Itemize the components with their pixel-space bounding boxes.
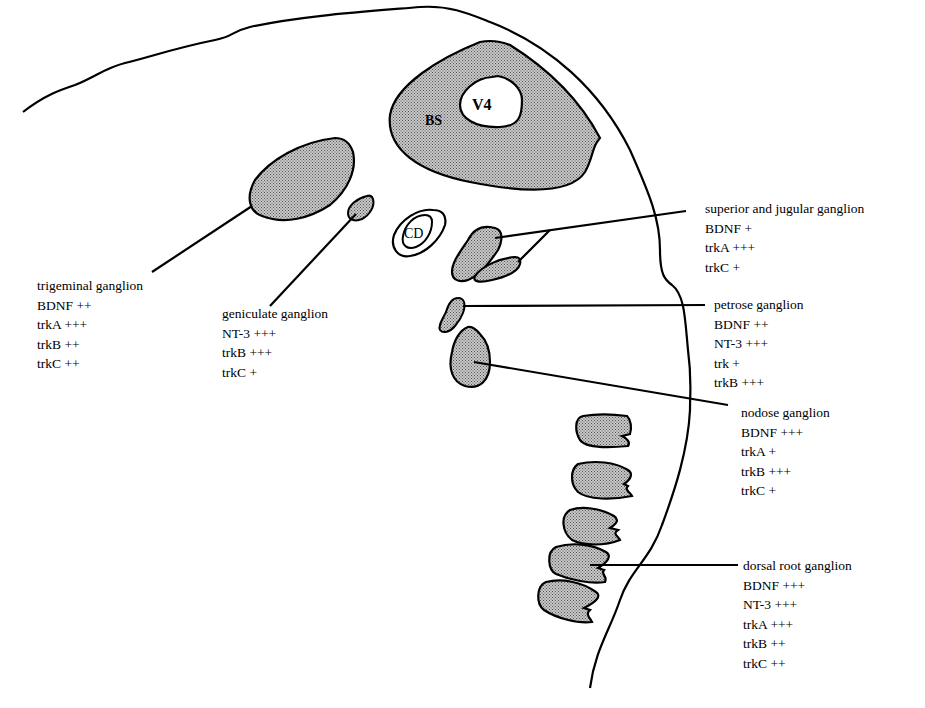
marker-label: NT-3 +++ (714, 334, 804, 354)
ganglion-name: dorsal root ganglion (743, 556, 852, 576)
marker-label: trkB +++ (741, 462, 830, 482)
cd-label: CD (404, 226, 423, 241)
nodose-ganglion-label: nodose ganglion BDNF +++ trkA + trkB +++… (741, 403, 830, 501)
marker-label: BDNF + (705, 219, 864, 239)
marker-label: BDNF ++ (37, 296, 143, 316)
marker-label: NT-3 +++ (222, 324, 328, 344)
drg-shape-5 (538, 580, 598, 622)
marker-label: trkB +++ (714, 373, 804, 393)
marker-label: BDNF ++ (714, 315, 804, 335)
superior-jugular-ganglion-label: superior and jugular ganglion BDNF + trk… (705, 199, 864, 277)
marker-label: trkB +++ (222, 343, 328, 363)
marker-label: NT-3 +++ (743, 595, 852, 615)
ganglion-name: trigeminal ganglion (37, 276, 143, 296)
trigeminal-ganglion-shape (250, 138, 354, 220)
v4-label: V4 (472, 96, 492, 113)
drg-shape-4 (549, 544, 609, 582)
drg-shape-3 (563, 508, 620, 545)
marker-label: BDNF +++ (741, 423, 830, 443)
geniculate-ganglion-label: geniculate ganglion NT-3 +++ trkB +++ tr… (222, 304, 328, 382)
marker-label: trkB ++ (743, 634, 852, 654)
marker-label: trkA +++ (37, 315, 143, 335)
marker-label: trk + (714, 354, 804, 374)
ganglion-name: geniculate ganglion (222, 304, 328, 324)
petrose-ganglion-label: petrose ganglion BDNF ++ NT-3 +++ trk + … (714, 295, 804, 393)
trigeminal-leader-line (152, 206, 252, 272)
geniculate-ganglion-shape (348, 196, 373, 221)
marker-label: trkC + (222, 363, 328, 383)
geniculate-leader-line (270, 214, 356, 306)
marker-label: trkB ++ (37, 335, 143, 355)
marker-label: trkA +++ (705, 238, 864, 258)
drg-shape-1 (576, 415, 631, 448)
ganglion-name: superior and jugular ganglion (705, 199, 864, 219)
ganglion-name: nodose ganglion (741, 403, 830, 423)
petrose-ganglion-shape (439, 298, 464, 332)
marker-label: trkC + (705, 258, 864, 278)
marker-label: BDNF +++ (743, 576, 852, 596)
ganglion-name: petrose ganglion (714, 295, 804, 315)
marker-label: trkC + (741, 481, 830, 501)
nodose-ganglion-shape (451, 327, 490, 387)
marker-label: trkA +++ (743, 615, 852, 635)
bs-label: BS (425, 113, 442, 128)
dorsal-root-ganglion-label: dorsal root ganglion BDNF +++ NT-3 +++ t… (743, 556, 852, 673)
marker-label: trkA + (741, 442, 830, 462)
marker-label: trkC ++ (743, 654, 852, 674)
drg-shape-2 (572, 462, 632, 499)
marker-label: trkC ++ (37, 354, 143, 374)
petrose-leader-line (463, 305, 705, 306)
trigeminal-ganglion-label: trigeminal ganglion BDNF ++ trkA +++ trk… (37, 276, 143, 374)
